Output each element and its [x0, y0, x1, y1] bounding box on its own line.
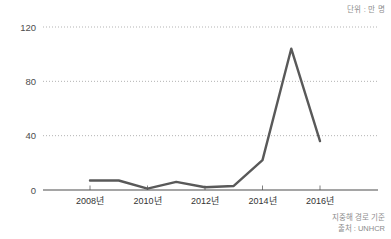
footnote-basis: 지중해 경로 기준 — [332, 213, 385, 224]
x-axis-tick-label: 2012년 — [191, 196, 219, 206]
x-axis-tick-label: 2010년 — [133, 196, 161, 206]
y-axis-tick-label: 80 — [25, 76, 36, 87]
x-axis-tick-label: 2014년 — [248, 196, 276, 206]
data-series-line — [90, 49, 320, 189]
chart-footnotes: 지중해 경로 기준 출처 : UNHCR — [332, 213, 385, 235]
x-axis-tick-label: 2008년 — [76, 196, 104, 206]
y-axis-tick-label: 40 — [25, 130, 36, 141]
series-line-refugee-inflow — [90, 49, 320, 189]
x-axis-tick-labels: 2008년2010년2012년2014년2016년 — [76, 196, 334, 206]
footnote-source: 출처 : UNHCR — [332, 224, 385, 235]
y-axis-tick-label: 0 — [31, 185, 36, 196]
y-axis-tick-labels: 04080120 — [20, 22, 36, 196]
gridlines-group — [43, 27, 378, 136]
chart-container: 단위 : 만 명 04080120 2008년2010년2012년2014년20… — [0, 0, 391, 239]
y-axis-tick-label: 120 — [20, 22, 36, 33]
line-chart-plot: 04080120 2008년2010년2012년2014년2016년 — [0, 0, 391, 239]
x-axis-tick-label: 2016년 — [306, 196, 334, 206]
